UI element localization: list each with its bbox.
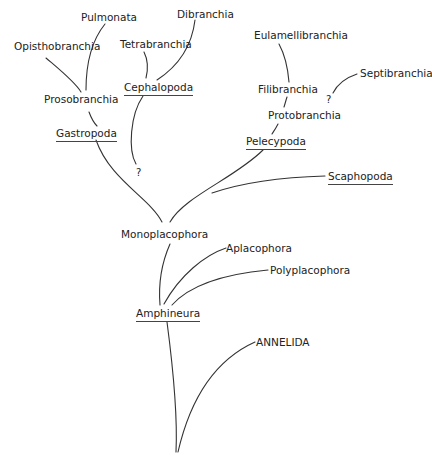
branch-cephalopoda-uncertain: [131, 96, 143, 164]
label-pulmonata: Pulmonata: [81, 11, 137, 23]
label-prosobranchia: Prosobranchia: [44, 93, 118, 105]
label-polyplacophora: Polyplacophora: [270, 264, 350, 276]
branch-dibranchia: [157, 20, 195, 80]
label-annelida: ANNELIDA: [256, 336, 310, 348]
label-pelecypoda: Pelecypoda: [246, 135, 306, 150]
label-septibranchia: Septibranchia: [360, 67, 432, 79]
branch-pulmonata: [86, 24, 105, 90]
label-dibranchia: Dibranchia: [177, 8, 234, 20]
branch-eulamellibranchia: [279, 44, 289, 82]
label-tetrabranchia: Tetrabranchia: [120, 38, 192, 50]
label-cephalopoda-uncertain: ?: [136, 167, 141, 179]
label-scaphopoda: Scaphopoda: [328, 170, 393, 185]
branch-opisthobranchia: [46, 58, 81, 92]
branch-septibranchia: [333, 74, 357, 93]
branch-prosobranchia: [89, 112, 97, 126]
label-eulamellibranchia: Eulamellibranchia: [254, 29, 348, 41]
label-opisthobranchia: Opisthobranchia: [14, 40, 100, 52]
branch-trunk-amphineura: [167, 322, 176, 452]
phylogenetic-tree-diagram: Pulmonata Dibranchia Opisthobranchia Tet…: [0, 0, 432, 458]
label-filibranchia: Filibranchia: [258, 83, 318, 95]
branch-filibranchia: [284, 97, 287, 107]
label-septibranchia-uncertain: ?: [326, 94, 331, 106]
branch-annelida: [178, 342, 255, 452]
branch-gastropoda: [96, 140, 162, 222]
branch-protobranchia: [272, 124, 278, 134]
label-gastropoda: Gastropoda: [56, 127, 117, 142]
label-cephalopoda: Cephalopoda: [124, 81, 193, 96]
branch-pelecypoda: [170, 150, 263, 222]
label-aplacophora: Aplacophora: [226, 242, 292, 254]
label-protobranchia: Protobranchia: [268, 109, 341, 121]
label-monoplacophora: Monoplacophora: [121, 228, 208, 240]
branch-tetrabranchia: [144, 52, 147, 78]
branch-polyplacophora: [172, 270, 268, 305]
label-amphineura: Amphineura: [136, 307, 200, 322]
branch-scaphopoda: [212, 176, 325, 193]
branch-aplacophora: [164, 248, 226, 304]
